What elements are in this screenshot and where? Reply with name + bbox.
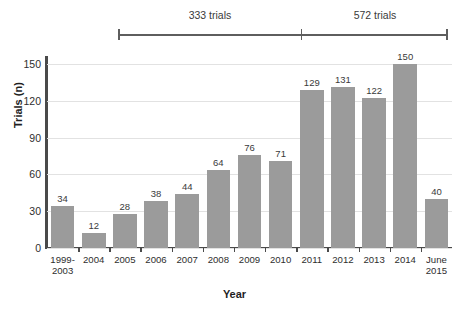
bar[interactable] — [425, 199, 449, 248]
bracket-label-572-trials: 572 trials — [325, 9, 425, 21]
bar[interactable] — [269, 161, 293, 248]
bar-group: 382006 — [140, 58, 171, 248]
y-tick-label-150: 150 — [23, 58, 47, 70]
chart-page: 333 trials 572 trials Trials (n) 0306090… — [0, 0, 469, 314]
bar-value-label: 71 — [265, 148, 296, 159]
bar-value-label: 64 — [203, 157, 234, 168]
bar[interactable] — [362, 98, 386, 248]
y-tick-label-0: 0 — [35, 242, 47, 254]
bar-group: 1502014 — [390, 58, 421, 248]
y-tick-label-30: 30 — [29, 205, 47, 217]
bracket-line-left — [118, 34, 301, 36]
bar-value-label: 150 — [390, 51, 421, 62]
bar-value-label: 129 — [296, 77, 327, 88]
x-tick-mark — [421, 248, 422, 252]
bar[interactable] — [113, 214, 137, 248]
bar[interactable] — [82, 233, 106, 248]
bar[interactable] — [393, 64, 417, 248]
bracket-label-333-trials: 333 trials — [160, 9, 260, 21]
x-tick-label: June 2015 — [415, 254, 458, 276]
bar[interactable] — [238, 155, 262, 248]
bar-series: 341999- 20031220042820053820064420076420… — [47, 58, 452, 248]
bar-value-label: 38 — [140, 188, 171, 199]
period-bracket-group: 333 trials 572 trials — [0, 0, 469, 48]
bar-value-label: 40 — [421, 186, 452, 197]
bar-group: 40June 2015 — [421, 58, 452, 248]
bar[interactable] — [207, 170, 231, 248]
x-tick-mark — [359, 248, 360, 252]
bar-value-label: 12 — [78, 220, 109, 231]
y-axis-title: Trials (n) — [12, 108, 24, 128]
x-tick-mark — [390, 248, 391, 252]
bar[interactable] — [144, 201, 168, 248]
bracket-cap-end — [446, 29, 448, 40]
bar-group: 341999- 2003 — [47, 58, 78, 248]
bar[interactable] — [51, 206, 75, 248]
bar-group: 282005 — [109, 58, 140, 248]
bracket-cap-middle — [301, 29, 303, 40]
x-tick-mark — [78, 248, 79, 252]
bar-group: 1222013 — [359, 58, 390, 248]
bar-group: 1312012 — [327, 58, 358, 248]
y-tick-label-90: 90 — [29, 132, 47, 144]
bar-value-label: 34 — [47, 193, 78, 204]
bar-value-label: 76 — [234, 142, 265, 153]
bar-value-label: 131 — [327, 74, 358, 85]
plot-inner: 0306090120150 341999- 200312200428200538… — [47, 58, 452, 248]
bar-group: 712010 — [265, 58, 296, 248]
x-tick-mark — [109, 248, 110, 252]
bar-group: 1292011 — [296, 58, 327, 248]
y-tick-label-120: 120 — [23, 95, 47, 107]
x-tick-mark — [327, 248, 328, 252]
x-tick-mark — [296, 248, 297, 252]
bar-group: 442007 — [172, 58, 203, 248]
gridline-0 — [47, 248, 452, 249]
y-tick-label-60: 60 — [29, 168, 47, 180]
bar-value-label: 28 — [109, 201, 140, 212]
bar[interactable] — [175, 194, 199, 248]
bar[interactable] — [300, 90, 324, 248]
x-tick-mark — [172, 248, 173, 252]
x-axis-title: Year — [0, 288, 469, 300]
bar-value-label: 44 — [172, 181, 203, 192]
bar[interactable] — [331, 87, 355, 248]
bracket-line-right — [301, 34, 447, 36]
bar-group: 642008 — [203, 58, 234, 248]
plot-area: 0306090120150 341999- 200312200428200538… — [47, 58, 452, 248]
x-tick-mark — [265, 248, 266, 252]
bar-value-label: 122 — [359, 85, 390, 96]
bar-group: 762009 — [234, 58, 265, 248]
bracket-cap-start — [118, 29, 120, 40]
x-tick-mark — [140, 248, 141, 252]
x-tick-mark — [203, 248, 204, 252]
bar-group: 122004 — [78, 58, 109, 248]
x-tick-mark — [234, 248, 235, 252]
